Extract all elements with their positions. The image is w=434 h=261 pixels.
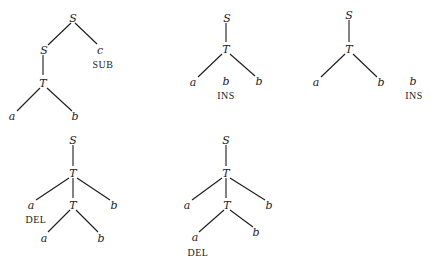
tree-node-s: S — [69, 134, 77, 147]
tree-edge — [48, 23, 71, 45]
tree-node-s: S — [222, 134, 230, 147]
operation-label-ins: INS — [405, 90, 423, 101]
tree-edge — [230, 178, 265, 200]
tree-node-s: S — [40, 44, 48, 57]
tree-edge — [198, 54, 222, 77]
tree-node-a: a — [192, 231, 199, 244]
tree-node-s: S — [69, 12, 77, 25]
tree-node-a: a — [41, 232, 48, 245]
tree-edge — [230, 210, 253, 227]
tree-edge — [17, 88, 40, 111]
operation-label-del: DEL — [188, 247, 209, 258]
tree-edge — [48, 210, 70, 232]
tree-node-a: a — [190, 76, 197, 89]
tree-node-a: a — [184, 199, 191, 212]
parse-tree-diagram: SScTabSUBSTabbINSSTabbINSSTaTbabDELSTaTb… — [0, 0, 434, 261]
tree-node-s: S — [345, 9, 353, 22]
parse-trees-svg: SScTabSUBSTabbINSSTabbINSSTaTbabDELSTaTb… — [0, 0, 434, 261]
tree-ins-2: STabbINS — [313, 9, 423, 101]
tree-ins-1: STabbINS — [190, 12, 263, 101]
tree-edge — [230, 54, 255, 76]
tree-edge — [77, 178, 110, 200]
tree-node-t: T — [69, 199, 78, 212]
tree-node-b: b — [255, 75, 262, 88]
tree-node-a: a — [313, 76, 320, 89]
tree-edge — [76, 210, 98, 232]
tree-del-2: STaTbabDEL — [184, 134, 273, 258]
operation-label-sub: SUB — [93, 59, 114, 70]
operation-label-ins: INS — [217, 90, 235, 101]
operation-label-del: DEL — [26, 214, 47, 225]
tree-edge — [36, 178, 69, 200]
tree-node-a: a — [9, 110, 16, 123]
tree-node-s: S — [223, 12, 231, 25]
tree-node-b: b — [222, 75, 229, 88]
tree-node-a: a — [28, 199, 35, 212]
tree-edge — [192, 178, 222, 200]
tree-edge — [321, 54, 345, 77]
tree-node-b: b — [377, 76, 384, 89]
tree-edge — [199, 210, 224, 232]
tree-node-b: b — [110, 199, 117, 212]
tree-node-b: b — [265, 199, 272, 212]
tree-node-b: b — [97, 232, 104, 245]
tree-node-c: c — [97, 44, 103, 57]
tree-edge — [47, 88, 72, 111]
tree-node-b: b — [409, 75, 416, 88]
tree-node-b: b — [252, 226, 259, 239]
tree-sub: SScTabSUB — [9, 12, 114, 123]
tree-node-b: b — [71, 110, 78, 123]
tree-edge — [75, 23, 97, 44]
tree-edge — [353, 54, 377, 77]
tree-del-1: STaTbabDEL — [26, 134, 118, 245]
